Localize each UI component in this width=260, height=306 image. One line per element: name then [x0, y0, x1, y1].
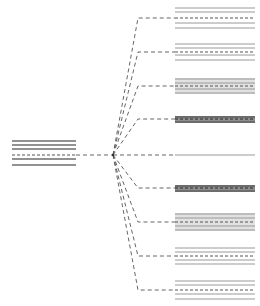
branch-connector-t9 — [113, 155, 175, 290]
source-block — [12, 141, 113, 165]
target-block-t7 — [175, 213, 255, 231]
target-block-t3 — [175, 78, 255, 94]
branch-connector-t7 — [113, 155, 175, 222]
target-block-t4 — [175, 116, 255, 123]
target-block-t8 — [175, 248, 255, 264]
target-block-t1 — [175, 8, 255, 28]
branch-connector-t4 — [113, 119, 175, 155]
target-blocks — [175, 8, 255, 299]
hub-node — [112, 154, 114, 156]
target-block-t2 — [175, 44, 255, 60]
branch-connector-t1 — [113, 18, 175, 155]
target-block-t6 — [175, 185, 255, 192]
fan-out-diagram — [0, 0, 260, 306]
branch-connector-t3 — [113, 86, 175, 155]
branch-connectors — [113, 18, 175, 290]
branch-connector-t6 — [113, 155, 175, 188]
target-block-t9 — [175, 281, 255, 299]
